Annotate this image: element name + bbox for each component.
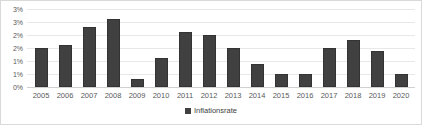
bar[interactable]: [35, 48, 48, 87]
y-axis-tick-label: 1%: [13, 58, 23, 65]
bar[interactable]: [323, 48, 336, 87]
x-axis-tick-label: 2020: [389, 89, 413, 103]
x-axis-tick-label: 2015: [269, 89, 293, 103]
y-axis-tick-label: 2%: [13, 32, 23, 39]
x-axis-tick-label: 2016: [293, 89, 317, 103]
x-axis-tick-label: 2013: [221, 89, 245, 103]
bar-slot: [341, 9, 365, 87]
y-axis-tick-label: 2%: [13, 45, 23, 52]
chart-legend: Inflationsrate: [1, 107, 421, 115]
axis-baseline: [27, 87, 415, 88]
plot-area: [27, 9, 415, 87]
bar-slot: [269, 9, 293, 87]
legend-label: Inflationsrate: [194, 107, 237, 115]
x-axis-tick-label: 2007: [77, 89, 101, 103]
bar[interactable]: [83, 27, 96, 87]
bar-slot: [293, 9, 317, 87]
bar-slot: [149, 9, 173, 87]
x-axis-tick-label: 2017: [317, 89, 341, 103]
bar-series-inflationsrate: [27, 9, 415, 87]
bar[interactable]: [371, 51, 384, 87]
x-axis-tick-label: 2006: [53, 89, 77, 103]
x-axis-tick-label: 2019: [365, 89, 389, 103]
bar[interactable]: [107, 19, 120, 87]
bar-slot: [389, 9, 413, 87]
bar-slot: [77, 9, 101, 87]
bar-slot: [317, 9, 341, 87]
bar[interactable]: [275, 74, 288, 87]
bar-slot: [197, 9, 221, 87]
y-axis-tick-label: 1%: [13, 71, 23, 78]
x-axis-tick-label: 2012: [197, 89, 221, 103]
bar-slot: [29, 9, 53, 87]
x-axis-tick-label: 2014: [245, 89, 269, 103]
bar-slot: [245, 9, 269, 87]
bar-slot: [173, 9, 197, 87]
bar-slot: [101, 9, 125, 87]
bar[interactable]: [179, 32, 192, 87]
y-axis-tick-label: 3%: [13, 19, 23, 26]
y-axis-tick-label: 0%: [13, 84, 23, 91]
bar-slot: [53, 9, 77, 87]
x-axis-tick-label: 2010: [149, 89, 173, 103]
chart-container: 3%3%2%2%1%1%0% 2005200620072008200920102…: [0, 0, 422, 125]
y-axis-tick-label: 3%: [13, 6, 23, 13]
x-axis-tick-label: 2009: [125, 89, 149, 103]
x-axis-tick-label: 2011: [173, 89, 197, 103]
legend-swatch-icon: [185, 108, 191, 114]
x-axis-tick-label: 2008: [101, 89, 125, 103]
bar[interactable]: [299, 74, 312, 87]
bar[interactable]: [347, 40, 360, 87]
bar[interactable]: [227, 48, 240, 87]
x-axis: 2005200620072008200920102011201220132014…: [27, 89, 415, 103]
bar[interactable]: [59, 45, 72, 87]
x-axis-tick-label: 2018: [341, 89, 365, 103]
bar[interactable]: [251, 64, 264, 87]
bar[interactable]: [395, 74, 408, 87]
x-axis-tick-label: 2005: [29, 89, 53, 103]
bar-slot: [125, 9, 149, 87]
bar[interactable]: [155, 58, 168, 87]
bar[interactable]: [203, 35, 216, 87]
y-axis: 3%3%2%2%1%1%0%: [1, 9, 25, 87]
bar[interactable]: [131, 79, 144, 87]
bar-slot: [221, 9, 245, 87]
bar-slot: [365, 9, 389, 87]
